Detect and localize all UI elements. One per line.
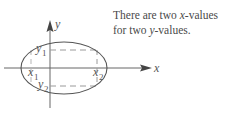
label-y1-sub: 1 [42, 48, 47, 58]
caption-line-2: for two y-values. [113, 23, 226, 38]
label-x2-sub: 2 [99, 72, 104, 82]
y-axis-label: y [54, 17, 61, 31]
label-y1: y [35, 41, 42, 55]
caption-line-1: There are two x-values [113, 8, 226, 23]
label-y2-sub: 2 [44, 84, 49, 94]
label-x1: x [27, 65, 34, 79]
caption: There are two x-values for two y-values. [113, 8, 226, 38]
label-y2: y [37, 77, 44, 91]
x-axis-label: x [153, 61, 160, 75]
label-x2: x [92, 65, 99, 79]
